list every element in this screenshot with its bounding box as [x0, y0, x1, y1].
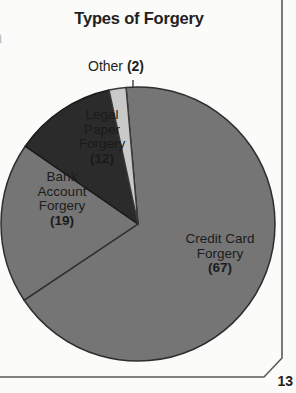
page-title: Types of Forgery: [0, 9, 278, 28]
pie-callout-other: Other (2): [88, 58, 144, 74]
pie-slice-label-bank-account-forgery: Bank Account Forgery (19): [10, 170, 114, 229]
pie-slice-label-credit-line2: Forgery: [168, 247, 272, 262]
pie-slice-label-legal-line2: Paper: [62, 123, 142, 138]
pie-callout-other-label: Other: [88, 58, 123, 74]
pie-slice-label-legal-paper-forgery: Legal Paper Forgery (12): [62, 108, 142, 167]
pie-slice-label-bank-line3: Forgery: [10, 199, 114, 214]
pie-callout-other-value: (2): [127, 58, 144, 74]
pie-slice-value-legal: (12): [62, 152, 142, 167]
page-bleed-glyph: n: [0, 26, 3, 48]
pie-slice-label-legal-line1: Legal: [62, 108, 142, 123]
pie-slice-value-credit: (67): [168, 261, 272, 276]
pie-slice-label-legal-line3: Forgery: [62, 137, 142, 152]
page-number: 13: [277, 373, 293, 389]
pie-slice-label-bank-line2: Account: [10, 185, 114, 200]
pie-slice-label-credit-line1: Credit Card: [168, 232, 272, 247]
pie-slice-label-credit-card-forgery: Credit Card Forgery (67): [168, 232, 272, 276]
pie-slice-label-bank-line1: Bank: [10, 170, 114, 185]
pie-slice-value-bank: (19): [10, 214, 114, 229]
